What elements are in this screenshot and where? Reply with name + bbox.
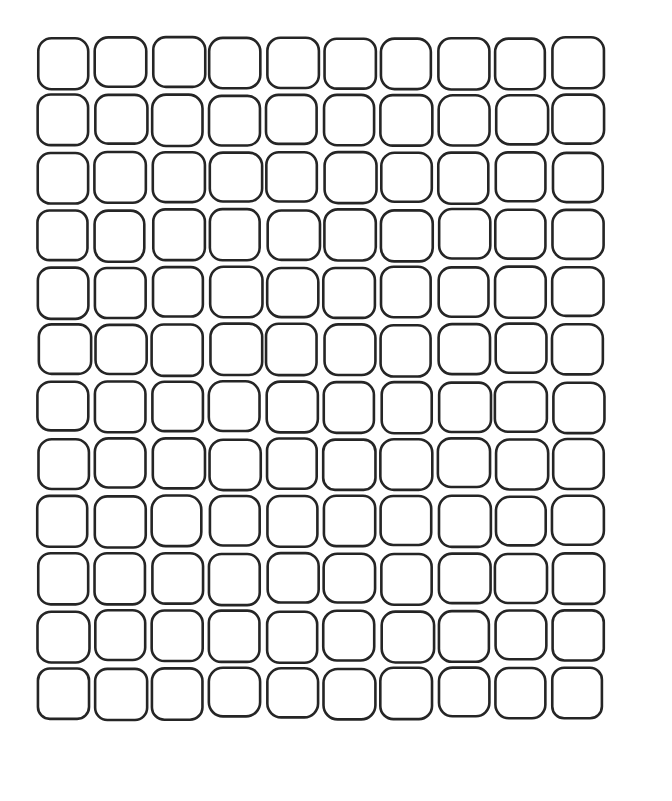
grid-cell[interactable]: [268, 553, 319, 602]
grid-cell[interactable]: [267, 612, 317, 663]
grid-cell[interactable]: [439, 267, 489, 316]
grid-cell[interactable]: [439, 611, 489, 662]
grid-cell[interactable]: [324, 554, 375, 603]
grid-cell[interactable]: [381, 267, 431, 318]
grid-cell[interactable]: [38, 669, 89, 719]
grid-cell[interactable]: [267, 496, 317, 547]
grid-cell[interactable]: [552, 37, 604, 88]
grid-cell[interactable]: [95, 438, 146, 487]
grid-cell[interactable]: [37, 612, 89, 663]
grid-cell[interactable]: [382, 612, 434, 663]
grid-cell[interactable]: [210, 324, 262, 375]
grid-cell[interactable]: [439, 324, 490, 374]
grid-cell[interactable]: [268, 210, 320, 259]
grid-cell[interactable]: [152, 496, 202, 547]
grid-cell[interactable]: [438, 38, 489, 89]
grid-cell[interactable]: [325, 39, 376, 89]
grid-cell[interactable]: [209, 668, 260, 717]
grid-cell[interactable]: [152, 668, 203, 719]
grid-cell[interactable]: [152, 611, 203, 662]
grid-cell[interactable]: [381, 325, 431, 376]
grid-cell[interactable]: [152, 553, 203, 603]
grid-cell[interactable]: [153, 209, 205, 260]
grid-cell[interactable]: [267, 382, 318, 433]
grid-cell[interactable]: [95, 610, 145, 660]
grid-cell[interactable]: [439, 668, 489, 717]
grid-cell[interactable]: [153, 152, 205, 202]
grid-cell[interactable]: [210, 440, 261, 490]
grid-cell[interactable]: [325, 152, 377, 203]
grid-cell[interactable]: [37, 496, 87, 547]
grid-cell[interactable]: [553, 153, 603, 202]
grid-cell[interactable]: [95, 268, 146, 318]
grid-cell[interactable]: [209, 611, 260, 662]
grid-cell[interactable]: [496, 440, 548, 490]
grid-cell[interactable]: [553, 383, 604, 433]
grid-cell[interactable]: [153, 267, 203, 316]
grid-cell[interactable]: [381, 210, 433, 261]
grid-cell[interactable]: [94, 152, 145, 203]
grid-cell[interactable]: [152, 95, 202, 146]
grid-cell[interactable]: [438, 153, 488, 204]
grid-cell[interactable]: [39, 324, 91, 374]
grid-cell[interactable]: [210, 496, 260, 546]
grid-cell[interactable]: [495, 39, 545, 90]
grid-cell[interactable]: [209, 96, 260, 146]
grid-cell[interactable]: [495, 668, 545, 718]
grid-cell[interactable]: [95, 382, 146, 433]
grid-cell[interactable]: [95, 553, 145, 604]
grid-cell[interactable]: [553, 610, 604, 660]
grid-cell[interactable]: [495, 267, 546, 318]
grid-cell[interactable]: [37, 210, 87, 260]
grid-cell[interactable]: [439, 95, 490, 145]
grid-cell[interactable]: [380, 95, 432, 146]
grid-cell[interactable]: [96, 325, 147, 374]
grid-cell[interactable]: [382, 382, 432, 433]
grid-cell[interactable]: [552, 496, 604, 545]
grid-cell[interactable]: [381, 554, 431, 605]
grid-cell[interactable]: [380, 668, 432, 719]
grid-cell[interactable]: [209, 554, 260, 605]
grid-cell[interactable]: [267, 438, 317, 488]
grid-cell[interactable]: [439, 209, 490, 258]
grid-cell[interactable]: [381, 153, 432, 202]
grid-cell[interactable]: [38, 94, 88, 145]
grid-cell[interactable]: [38, 153, 88, 203]
grid-cell[interactable]: [152, 325, 203, 376]
grid-cell[interactable]: [323, 268, 375, 318]
grid-cell[interactable]: [380, 439, 432, 490]
grid-cell[interactable]: [266, 324, 317, 375]
grid-cell[interactable]: [210, 267, 262, 318]
grid-cell[interactable]: [552, 267, 603, 316]
grid-cell[interactable]: [438, 438, 490, 487]
grid-cell[interactable]: [324, 669, 376, 719]
grid-cell[interactable]: [153, 37, 205, 87]
grid-cell[interactable]: [266, 95, 317, 144]
grid-cell[interactable]: [38, 38, 88, 89]
grid-cell[interactable]: [439, 383, 491, 432]
grid-cell[interactable]: [381, 39, 431, 90]
grid-cell[interactable]: [496, 497, 546, 546]
grid-cell[interactable]: [324, 95, 374, 145]
grid-cell[interactable]: [552, 324, 603, 374]
grid-cell[interactable]: [153, 438, 205, 488]
grid-cell[interactable]: [552, 668, 602, 719]
grid-cell[interactable]: [38, 439, 88, 489]
grid-cell[interactable]: [267, 38, 319, 88]
grid-cell[interactable]: [267, 268, 318, 317]
grid-cell[interactable]: [439, 496, 491, 547]
grid-cell[interactable]: [495, 554, 547, 603]
grid-cell[interactable]: [495, 382, 547, 432]
grid-cell[interactable]: [210, 209, 260, 260]
grid-cell[interactable]: [323, 611, 374, 661]
grid-cell[interactable]: [152, 382, 203, 431]
grid-cell[interactable]: [266, 152, 316, 201]
grid-cell[interactable]: [324, 382, 374, 433]
grid-cell[interactable]: [496, 324, 547, 373]
grid-cell[interactable]: [95, 669, 147, 720]
grid-cell[interactable]: [381, 496, 432, 545]
grid-cell[interactable]: [95, 37, 147, 86]
grid-cell[interactable]: [95, 496, 146, 547]
grid-cell[interactable]: [553, 553, 604, 604]
grid-cell[interactable]: [209, 381, 260, 431]
